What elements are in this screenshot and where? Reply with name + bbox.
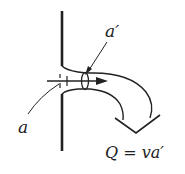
jet-outer-curve [62, 66, 152, 118]
arrow-right-icon [96, 77, 108, 85]
jet-boundaries [62, 66, 152, 120]
orifice-flow-diagram: a a′ Q = va′ [0, 0, 185, 174]
flow-arrow [47, 77, 108, 85]
label-flow-equation: Q = va′ [105, 143, 164, 162]
leader-a [28, 84, 59, 114]
label-orifice-area: a [18, 117, 28, 137]
label-contracted-area: a′ [105, 21, 119, 41]
jet-inner-curve [62, 89, 123, 120]
leader-a-prime [89, 42, 107, 70]
arrowhead-outflow [115, 115, 160, 133]
